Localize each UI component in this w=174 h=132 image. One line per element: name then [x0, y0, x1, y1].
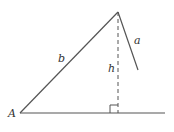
side-a-label: a [134, 34, 141, 47]
triangle-diagram: A b a h [0, 0, 174, 132]
height-label: h [108, 62, 115, 75]
side-b-label: b [58, 52, 65, 65]
side-b [20, 12, 118, 113]
vertex-a-label: A [7, 107, 16, 120]
right-angle-marker [110, 105, 118, 113]
